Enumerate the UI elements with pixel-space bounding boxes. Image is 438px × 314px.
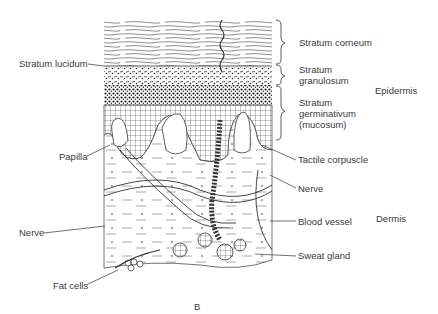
label-tactile-corpuscle: Tactile corpuscle	[298, 154, 368, 165]
label-dermis: Dermis	[376, 213, 406, 224]
label-blood-vessel: Blood vessel	[298, 216, 352, 227]
label-stratum-germinativum-line1: Stratum	[299, 97, 332, 108]
label-stratum-granulosum-line2: granulosum	[299, 75, 349, 86]
label-sweat-gland: Sweat gland	[298, 250, 350, 261]
stratum-granulosum-layer	[104, 67, 272, 85]
label-nerve-left: Nerve	[19, 227, 44, 238]
label-stratum-germinativum-line3: (mucosum)	[299, 119, 347, 130]
label-stratum-corneum: Stratum corneum	[299, 37, 372, 48]
label-epidermis: Epidermis	[375, 85, 417, 96]
label-papilla: Papilla	[59, 151, 88, 162]
stratum-corneum-layer	[104, 20, 272, 66]
sweat-gland-shape	[217, 244, 233, 260]
label-stratum-granulosum-line1: Stratum	[299, 64, 332, 75]
skin-diagram: Stratum corneum Stratum lucidum Stratum …	[0, 0, 438, 314]
panel-label: B	[194, 301, 200, 312]
label-fat-cells: Fat cells	[53, 280, 88, 291]
brace-stratum-granulosum	[276, 65, 285, 85]
label-stratum-lucidum: Stratum lucidum	[19, 58, 88, 69]
stratum-germinativum-dark-layer	[104, 85, 272, 105]
label-stratum-germinativum-line2: germinativum	[299, 108, 356, 119]
brace-stratum-corneum	[276, 20, 285, 64]
brace-stratum-germinativum	[276, 86, 285, 140]
label-nerve-right: Nerve	[298, 183, 323, 194]
